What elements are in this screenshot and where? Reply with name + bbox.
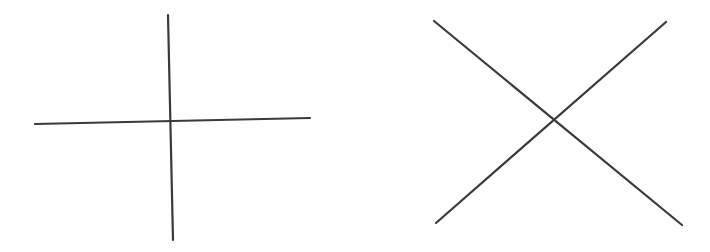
x-cross-figure bbox=[434, 21, 682, 225]
plus-cross-figure bbox=[35, 15, 310, 240]
plus-cross-line-2 bbox=[35, 118, 310, 124]
figure-canvas bbox=[0, 0, 710, 252]
plus-cross-line-1 bbox=[168, 15, 173, 240]
x-cross-line-1 bbox=[434, 21, 682, 225]
